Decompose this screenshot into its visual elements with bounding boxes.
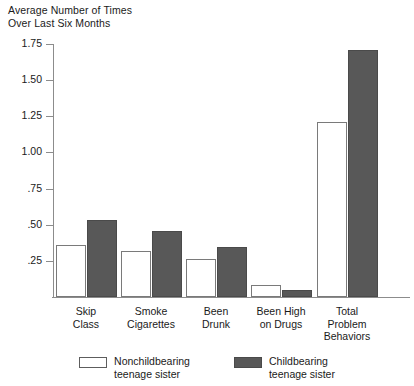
legend-label: Nonchildbearing teenage sister — [114, 355, 190, 381]
y-axis-tick: .75 — [46, 189, 53, 190]
bar — [87, 220, 117, 297]
bar — [251, 285, 281, 297]
y-axis-tick: 1.25 — [46, 116, 53, 117]
chart-title: Average Number of Times Over Last Six Mo… — [8, 4, 132, 30]
bar — [348, 50, 378, 297]
y-axis-tick-label: .25 — [27, 254, 42, 266]
y-axis-tick: .25 — [46, 261, 53, 262]
bar — [217, 247, 247, 297]
legend-label: Childbearing teenage sister — [269, 355, 335, 381]
y-axis-tick-label: .75 — [27, 182, 42, 194]
bar — [152, 231, 182, 298]
legend-swatch — [79, 357, 107, 368]
legend-swatch — [234, 357, 262, 368]
x-axis-category-label: Total Problem Behaviors — [302, 305, 392, 343]
bar — [186, 259, 216, 297]
bar — [56, 245, 86, 297]
x-axis-line — [52, 297, 410, 298]
y-axis-tick-label: 1.00 — [22, 145, 42, 157]
bar — [121, 251, 151, 297]
bar — [282, 290, 312, 297]
y-axis-tick: 1.00 — [46, 152, 53, 153]
y-axis-tick: 1.50 — [46, 80, 53, 81]
y-axis-tick: 1.75 — [46, 44, 53, 45]
y-axis-tick-label: 1.50 — [22, 73, 42, 85]
legend-entry: Childbearing teenage sister — [234, 355, 335, 381]
y-axis-tick-label: 1.25 — [22, 109, 42, 121]
y-axis-tick-label: 1.75 — [22, 37, 42, 49]
y-axis-tick-label: .50 — [27, 218, 42, 230]
y-axis-tick: .50 — [46, 225, 53, 226]
chart-legend: Nonchildbearing teenage sisterChildbeari… — [0, 355, 414, 381]
plot-area: 1.751.501.251.00.75.50.25 — [53, 44, 410, 297]
legend-entry: Nonchildbearing teenage sister — [79, 355, 190, 381]
bar — [317, 122, 347, 297]
